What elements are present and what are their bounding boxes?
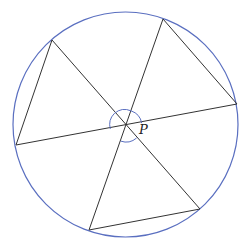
point-label-P: P: [138, 122, 148, 137]
circle-chords-diagram: P: [0, 0, 251, 242]
chord-E-D: [89, 209, 200, 230]
chord-A-F: [16, 40, 52, 145]
angle-arc-upper-left: [114, 110, 131, 114]
chord-C-F: [16, 104, 237, 145]
chord-B-C: [163, 19, 237, 104]
angle-arc-bottom: [121, 138, 137, 142]
